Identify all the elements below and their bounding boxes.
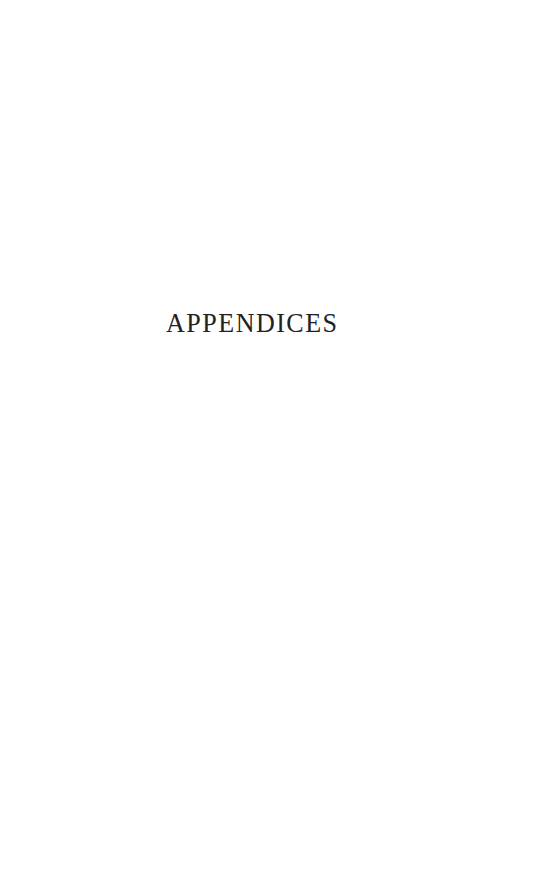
- document-page: APPENDICES: [0, 0, 548, 884]
- section-title: APPENDICES: [166, 307, 339, 339]
